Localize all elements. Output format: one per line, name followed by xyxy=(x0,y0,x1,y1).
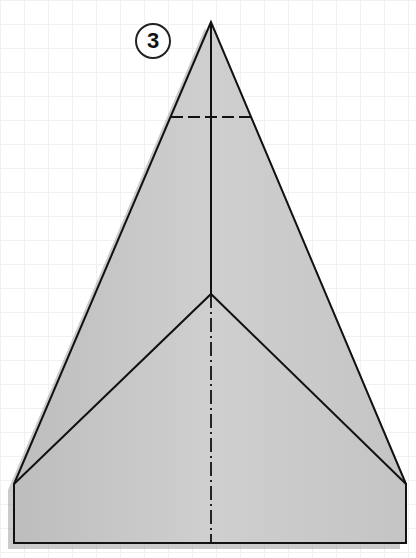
step-number: 3 xyxy=(147,28,159,54)
folding-diagram xyxy=(0,0,416,558)
step-number-badge: 3 xyxy=(135,23,171,59)
